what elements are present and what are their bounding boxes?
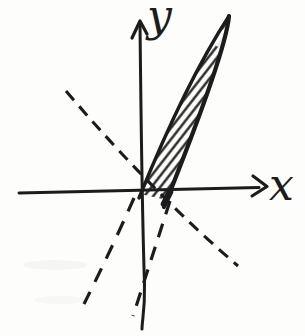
- scanned-figure-page: y x: [0, 0, 305, 336]
- y-axis-line: [140, 23, 145, 329]
- dashed-extension-right-edge-line: [133, 201, 170, 316]
- paper-smudge: [34, 296, 86, 304]
- x-axis-line: [19, 188, 259, 194]
- axes-diagram-canvas: y x: [0, 0, 305, 336]
- dashed-extension-left-edge-line: [84, 198, 134, 304]
- x-axis-label: x: [269, 159, 294, 210]
- paper-smudge: [23, 260, 87, 270]
- x-axis-arrowhead-icon: [252, 176, 267, 196]
- y-axis-label: y: [145, 0, 173, 41]
